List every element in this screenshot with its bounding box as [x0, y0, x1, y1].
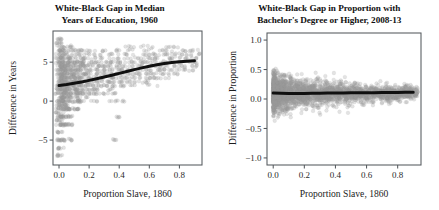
panel-right-bachelors-gap: White-Black Gap in Proportion with Bache…	[220, 0, 439, 210]
x-tick-label: 0.4	[114, 170, 126, 180]
y-tick-label: 1.0	[250, 35, 262, 45]
right-axis-ticks: 0.00.20.40.60.81.00.50.0−0.5−1.0	[245, 35, 404, 179]
right-loess-curve	[273, 92, 413, 93]
panel-left-plot: 0.00.20.40.60.850−5 Proportion Slave, 18…	[0, 0, 220, 210]
figure-two-panel-scatter: White-Black Gap in Median Years of Educa…	[0, 0, 439, 210]
y-tick-label: −1.0	[245, 153, 262, 163]
x-tick-label: 0.2	[298, 170, 309, 180]
left-x-axis-title: Proportion Slave, 1860	[83, 188, 172, 199]
right-y-axis-title: Difference in Proportion	[227, 51, 238, 145]
left-scatter-points	[53, 36, 201, 157]
x-tick-label: 0.6	[144, 170, 156, 180]
panel-left-education-gap: White-Black Gap in Median Years of Educa…	[0, 0, 220, 210]
right-x-axis-title: Proportion Slave, 1860	[299, 188, 388, 199]
left-y-axis-title: Difference in Years	[7, 61, 18, 135]
x-tick-label: 0.0	[267, 170, 279, 180]
y-tick-label: 0.0	[250, 94, 262, 104]
x-tick-label: 0.6	[360, 170, 372, 180]
y-tick-label: 5	[43, 57, 48, 67]
x-tick-label: 0.8	[392, 170, 404, 180]
y-tick-label: −0.5	[245, 124, 262, 134]
y-tick-label: −5	[38, 135, 48, 145]
panel-right-plot: 0.00.20.40.60.81.00.50.0−0.5−1.0 Proport…	[220, 0, 439, 210]
x-tick-label: 0.4	[329, 170, 341, 180]
x-tick-label: 0.2	[83, 170, 94, 180]
y-tick-label: 0	[43, 96, 48, 106]
y-tick-label: 0.5	[250, 65, 262, 75]
x-tick-label: 0.8	[174, 170, 186, 180]
x-tick-label: 0.0	[53, 170, 65, 180]
